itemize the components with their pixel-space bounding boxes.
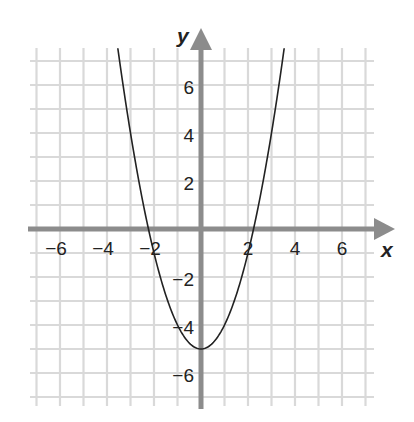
x-axis-title: x [380,238,394,261]
x-tick-label: 6 [337,238,348,259]
y-axis-title: y [176,24,190,47]
y-tick-label: −2 [172,269,194,290]
x-tick-label: −4 [92,238,114,259]
x-tick-labels: −6−4−2246 [45,238,347,259]
y-tick-label: 2 [183,173,194,194]
y-tick-label: −4 [172,317,194,338]
x-tick-label: 4 [290,238,301,259]
x-axis-arrow-icon [374,218,395,240]
y-axis-arrow-icon [190,28,212,50]
y-tick-label: 6 [183,77,194,98]
x-tick-label: −6 [45,238,67,259]
y-tick-label: −6 [172,365,194,386]
x-tick-label: 2 [243,238,254,259]
y-tick-label: 4 [183,125,194,146]
x-tick-label: −2 [139,238,161,259]
coordinate-plane: −6−4−2246 642−2−4−6 x y [0,0,414,422]
